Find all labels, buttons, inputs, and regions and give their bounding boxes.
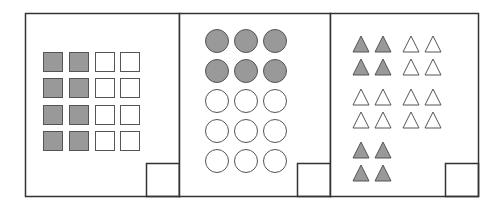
unshaded-circle <box>235 90 258 113</box>
unshaded-square <box>121 132 140 151</box>
unshaded-circle <box>264 120 287 143</box>
shaded-circle <box>235 60 258 83</box>
unshaded-circle <box>235 150 258 173</box>
unshaded-square <box>96 79 115 98</box>
unshaded-circle <box>264 90 287 113</box>
shaded-circle <box>206 30 229 53</box>
unshaded-circle <box>206 150 229 173</box>
shaded-square <box>70 79 89 98</box>
shaded-square <box>44 79 63 98</box>
unshaded-circle <box>264 150 287 173</box>
unshaded-square <box>121 53 140 72</box>
shaded-circle <box>235 30 258 53</box>
shaded-square <box>70 132 89 151</box>
unshaded-circle <box>206 120 229 143</box>
shaded-square <box>70 53 89 72</box>
shaded-square <box>70 106 89 125</box>
unshaded-square <box>96 53 115 72</box>
shaded-square <box>44 132 63 151</box>
shaded-circle <box>264 60 287 83</box>
unshaded-square <box>96 106 115 125</box>
shaded-circle <box>206 60 229 83</box>
shaded-square <box>44 106 63 125</box>
unshaded-square <box>96 132 115 151</box>
shaded-square <box>44 53 63 72</box>
unshaded-square <box>121 79 140 98</box>
unshaded-square <box>121 106 140 125</box>
shaded-circle <box>264 30 287 53</box>
unshaded-circle <box>206 90 229 113</box>
pattern-figure <box>0 0 500 208</box>
unshaded-circle <box>235 120 258 143</box>
